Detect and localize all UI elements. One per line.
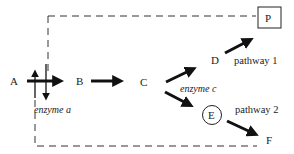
- pathway-2-label: pathway 2: [235, 104, 278, 115]
- node-p: P: [265, 12, 271, 24]
- arrow-e-to-f: [227, 121, 255, 134]
- node-c: C: [140, 76, 147, 88]
- node-f: F: [266, 134, 272, 146]
- pathway-1-label: pathway 1: [234, 55, 277, 66]
- pathway-diagram: A enzyme a B C enzyme c D pathway 1 P E …: [0, 0, 294, 154]
- enzyme-a-label: enzyme a: [34, 104, 71, 115]
- arrow-c-to-d: [166, 69, 193, 82]
- node-a: A: [10, 75, 18, 87]
- enzyme-c-label: enzyme c: [180, 83, 217, 94]
- node-e: E: [208, 109, 215, 121]
- arrow-d-to-p: [225, 40, 250, 53]
- node-d: D: [211, 54, 219, 66]
- node-b: B: [76, 75, 83, 87]
